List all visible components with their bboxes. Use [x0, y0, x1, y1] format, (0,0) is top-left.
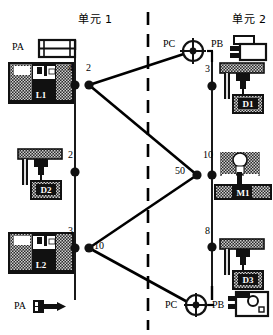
transport-link-top	[89, 51, 193, 85]
node-2a[interactable]	[84, 80, 93, 89]
node-label-50: 50	[175, 165, 185, 176]
transport-link-lower-diagonal	[89, 175, 197, 248]
node-10a[interactable]	[84, 243, 93, 252]
machine-label-L2: L2	[36, 260, 47, 270]
node-label-3a: 3	[68, 225, 73, 236]
bracket-icon-bottom	[228, 292, 268, 316]
diagram-vector-layer: L1 D1 D2	[0, 0, 273, 335]
transport-link-upper-diagonal	[89, 85, 197, 175]
node-label-10b: 10	[203, 149, 213, 160]
node-label-10a: 10	[94, 240, 104, 251]
node-label-3b: 3	[205, 63, 210, 74]
node-50[interactable]	[192, 170, 201, 179]
target-icon-top	[180, 38, 206, 64]
port-label-pa-bottom: PA	[14, 300, 26, 311]
node-8[interactable]	[207, 242, 216, 251]
machine-icon-D3: D3	[220, 239, 264, 290]
machine-label-D2: D2	[41, 185, 52, 195]
node-label-4: 4	[68, 62, 73, 73]
port-label-pb-bottom: PB	[212, 299, 224, 310]
node-10b[interactable]	[207, 170, 216, 179]
port-label-pa-top: PA	[12, 41, 24, 52]
port-label-pc-bottom: PC	[165, 299, 177, 310]
machine-label-M1: M1	[237, 188, 250, 198]
transport-link-bottom	[89, 248, 193, 305]
node-label-2b: 2	[68, 149, 73, 160]
tool-arrow-icon	[33, 300, 66, 313]
machine-icon-L2: L2	[8, 232, 74, 274]
port-label-pc-top: PC	[163, 38, 175, 49]
node-2b[interactable]	[70, 167, 79, 176]
machine-icon-L1: L1	[8, 62, 74, 104]
port-label-pb-top: PB	[211, 38, 223, 49]
machine-icon-M1: M1	[214, 152, 272, 200]
machine-label-D1: D1	[243, 99, 254, 109]
machine-label-L1: L1	[36, 90, 47, 100]
machine-icon-D1: D1	[220, 63, 264, 114]
node-3a[interactable]	[70, 243, 79, 252]
bracket-icon-top	[230, 36, 266, 60]
node-4[interactable]	[70, 80, 79, 89]
machine-label-D3: D3	[243, 275, 254, 285]
pallet-icon	[39, 40, 75, 57]
node-label-2a: 2	[86, 62, 91, 73]
node-label-8: 8	[205, 225, 210, 236]
target-icon-bottom	[184, 293, 208, 317]
machine-icon-D2: D2	[18, 149, 62, 200]
diagram-canvas: 单元 1 单元 2	[0, 0, 273, 335]
node-3b[interactable]	[207, 81, 216, 90]
